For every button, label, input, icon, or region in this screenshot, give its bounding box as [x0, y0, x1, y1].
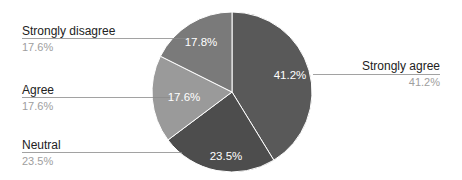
slice-value-strongly-agree: 41.2%	[274, 69, 307, 81]
label-pct-strongly-disagree: 17.6%	[22, 41, 53, 53]
label-pct-agree: 17.6%	[22, 100, 53, 112]
label-strongly-agree: Strongly agree	[362, 59, 440, 73]
slice-value-strongly-disagree: 17.8%	[185, 36, 218, 48]
slice-value-neutral: 23.5%	[210, 150, 243, 162]
label-strongly-disagree: Strongly disagree	[22, 24, 116, 38]
slice-value-agree: 17.6%	[168, 91, 201, 103]
pie-chart: 41.2% 23.5% 17.6% 17.8% Strongly disagre…	[0, 0, 462, 180]
label-agree: Agree	[22, 83, 54, 97]
label-neutral: Neutral	[22, 138, 61, 152]
label-pct-strongly-agree: 41.2%	[409, 76, 440, 88]
label-pct-neutral: 23.5%	[22, 155, 53, 167]
